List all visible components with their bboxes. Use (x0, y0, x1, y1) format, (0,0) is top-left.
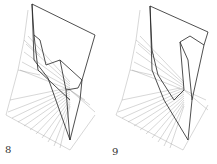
figure-8: 8 (0, 0, 108, 164)
figure-label: 8 (5, 144, 11, 155)
wireframe-drawing-8 (0, 0, 108, 164)
figure-label: 9 (112, 146, 118, 157)
wireframe-drawing-9 (108, 0, 217, 164)
figure-9: 9 (108, 0, 216, 164)
